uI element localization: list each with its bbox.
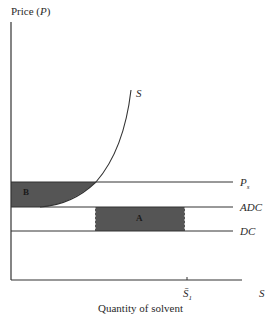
dc-label: DC xyxy=(240,226,255,237)
y-axis-label-var: P xyxy=(40,5,47,17)
supply-curve-label: S xyxy=(136,88,142,99)
s1-tick-label: S̄1 xyxy=(183,288,192,302)
s1-tick-label-sub: 1 xyxy=(189,294,193,302)
y-axis-label: Price (P) xyxy=(11,6,50,17)
ps-label-main: P xyxy=(240,176,247,188)
ps-label-sub: s xyxy=(247,183,250,191)
adc-label: ADC xyxy=(240,202,262,213)
diagram-canvas xyxy=(0,0,270,323)
x-axis-end-label: S xyxy=(259,288,265,299)
x-axis-label: Quantity of solvent xyxy=(98,303,183,314)
y-axis-label-text: Price ( xyxy=(11,5,40,17)
area-a-label: A xyxy=(136,214,143,223)
area-b-label: B xyxy=(23,188,29,197)
ps-label: Ps xyxy=(240,177,249,191)
y-axis-label-close: ) xyxy=(47,5,51,17)
